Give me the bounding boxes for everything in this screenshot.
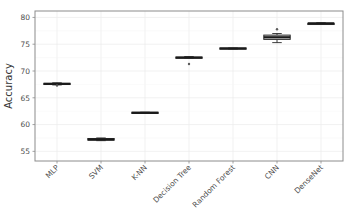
y-tick-label: 70 xyxy=(20,67,30,76)
outlier-point xyxy=(188,63,190,65)
y-axis-ticks: 556065707580 xyxy=(20,13,35,156)
boxplot-svm xyxy=(88,138,114,141)
y-tick-label: 65 xyxy=(20,94,30,103)
x-tick-label: DenseNet xyxy=(292,163,324,195)
x-tick-label: K-NN xyxy=(130,163,149,182)
x-tick-label: CNN xyxy=(263,163,281,181)
y-axis-title: Accuracy xyxy=(3,63,14,109)
boxplot-densenet xyxy=(308,23,334,25)
x-axis-labels: MLPSVMK-NNDecision TreeRandom ForestCNND… xyxy=(44,161,325,209)
x-tick-label: SVM xyxy=(87,163,105,181)
outlier-point xyxy=(276,28,278,30)
y-tick-label: 55 xyxy=(20,147,30,156)
x-tick-label: Random Forest xyxy=(191,163,237,209)
chart-canvas: 556065707580MLPSVMK-NNDecision TreeRando… xyxy=(0,0,359,216)
y-tick-label: 75 xyxy=(20,40,30,49)
y-tick-label: 80 xyxy=(20,13,30,22)
boxplot-chart: 556065707580MLPSVMK-NNDecision TreeRando… xyxy=(0,0,359,216)
x-tick-label: MLP xyxy=(44,163,61,180)
boxplot-random-forest xyxy=(220,48,246,49)
boxplot-k-nn xyxy=(132,112,158,113)
x-tick-label: Decision Tree xyxy=(151,163,193,205)
outlier-point xyxy=(56,84,58,86)
y-tick-label: 60 xyxy=(20,120,30,129)
